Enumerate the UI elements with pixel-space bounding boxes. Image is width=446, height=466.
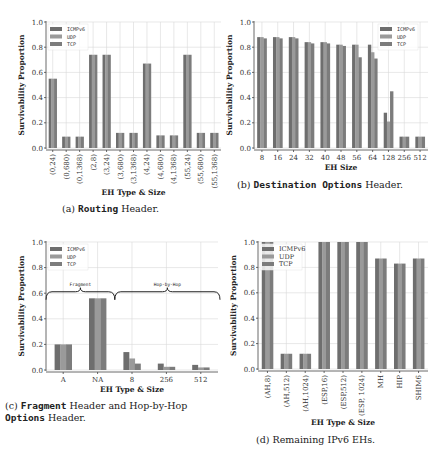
bar-icmpv6-12 bbox=[210, 133, 213, 148]
bar-udp-4 bbox=[324, 42, 327, 148]
bar-tcp-11 bbox=[202, 133, 205, 148]
bar-udp-10 bbox=[419, 137, 422, 148]
bar-tcp-8 bbox=[162, 135, 165, 148]
bar-udp-3 bbox=[322, 242, 326, 369]
y-tick-label: 0.6 bbox=[244, 289, 256, 297]
bar-tcp-1 bbox=[288, 354, 292, 369]
legend-swatch-icmpv6 bbox=[50, 247, 62, 251]
bar-icmpv6-8 bbox=[156, 135, 159, 148]
brace-hop-by-hop bbox=[115, 288, 220, 300]
annotation-hop-by-hop: Hop-by-Hop bbox=[154, 282, 181, 287]
x-tick-label: (3,1368) bbox=[130, 154, 138, 184]
bar-icmpv6-0 bbox=[49, 79, 52, 148]
bar-icmpv6-0 bbox=[257, 37, 260, 148]
legend-swatch-tcp bbox=[380, 42, 392, 46]
bar-tcp-1 bbox=[68, 137, 71, 148]
bar-udp-3 bbox=[92, 55, 95, 148]
bar-icmpv6-0 bbox=[55, 344, 61, 370]
y-tick-label: 0.0 bbox=[32, 367, 43, 375]
caption: (a) Routing Header. bbox=[62, 203, 159, 214]
legend-label-udp: UDP bbox=[397, 34, 406, 40]
bar-udp-7 bbox=[371, 52, 374, 148]
bar-tcp-3 bbox=[311, 43, 314, 148]
bar-icmpv6-5 bbox=[356, 242, 360, 369]
x-tick-label: 24 bbox=[289, 154, 298, 162]
x-tick-label: 128 bbox=[382, 154, 395, 162]
bar-icmpv6-10 bbox=[415, 137, 418, 148]
y-tick-label: 0.4 bbox=[244, 315, 256, 323]
bar-icmpv6-6 bbox=[129, 133, 132, 148]
bar-tcp-9 bbox=[406, 137, 409, 148]
chart-c: 0.00.20.40.60.81.0ANA8256512EH Type & Si… bbox=[5, 239, 220, 424]
caption-prefix: (a) bbox=[62, 203, 78, 214]
y-tick-label: 0.4 bbox=[32, 94, 44, 102]
bar-icmpv6-4 bbox=[103, 55, 106, 148]
legend-swatch-udp bbox=[262, 255, 274, 259]
y-tick-label: 0.4 bbox=[240, 94, 252, 102]
y-tick-label: 0.0 bbox=[240, 145, 251, 153]
legend-swatch-icmpv6 bbox=[262, 247, 274, 251]
x-tick-label: 256 bbox=[160, 376, 174, 384]
bar-udp-2 bbox=[292, 37, 295, 148]
x-tick-label: (0,680) bbox=[63, 154, 71, 180]
bar-icmpv6-2 bbox=[123, 352, 129, 370]
x-tick-label: 32 bbox=[305, 154, 314, 162]
chart-b: 0.00.20.40.60.81.08162432404856641282565… bbox=[225, 19, 428, 191]
bar-icmpv6-3 bbox=[305, 42, 308, 148]
bar-udp-5 bbox=[360, 242, 364, 369]
chart-d: 0.00.20.40.60.81.0(AH,8)(AH,512)(AH,1024… bbox=[229, 239, 428, 446]
bar-udp-5 bbox=[339, 45, 342, 148]
x-tick-label: HIP bbox=[396, 375, 404, 389]
x-tick-label: 16 bbox=[273, 154, 282, 162]
bar-icmpv6-3 bbox=[89, 55, 92, 148]
bar-icmpv6-2 bbox=[76, 137, 79, 148]
bar-icmpv6-1 bbox=[273, 37, 276, 148]
y-tick-label: 0.6 bbox=[32, 69, 44, 77]
bar-icmpv6-4 bbox=[192, 365, 198, 370]
bar-tcp-4 bbox=[204, 367, 210, 370]
y-tick-label: 1.0 bbox=[244, 239, 255, 247]
bar-icmpv6-1 bbox=[89, 298, 95, 370]
y-tick-label: 0.6 bbox=[240, 69, 252, 77]
bar-udp-2 bbox=[303, 354, 307, 369]
legend-swatch-udp bbox=[50, 35, 62, 39]
caption-prefix: (d) bbox=[256, 434, 273, 445]
bar-udp-4 bbox=[105, 55, 108, 148]
x-axis-label: EH Type & Size bbox=[102, 188, 166, 197]
legend-swatch-tcp bbox=[50, 262, 62, 266]
bar-tcp-8 bbox=[390, 91, 393, 148]
y-tick-label: 1.0 bbox=[32, 19, 43, 27]
x-tick-label: (55,24) bbox=[184, 154, 192, 180]
brace-fragment bbox=[46, 288, 115, 300]
bar-icmpv6-10 bbox=[183, 55, 186, 148]
caption-mono: Options bbox=[5, 412, 45, 423]
x-tick-label: 48 bbox=[337, 154, 346, 162]
caption: (b) Destination Options Header. bbox=[237, 179, 403, 190]
legend-label-udp: UDP bbox=[67, 254, 76, 260]
x-tick-label: (2,8) bbox=[90, 154, 98, 171]
caption-suffix: Header. bbox=[118, 203, 159, 214]
y-axis-label: Survivability Proportion bbox=[225, 34, 234, 136]
bar-tcp-4 bbox=[108, 55, 111, 148]
bar-tcp-0 bbox=[54, 79, 57, 148]
x-tick-label: (0,24) bbox=[49, 154, 57, 175]
legend: ICMPv6UDPTCP bbox=[378, 24, 418, 50]
legend-swatch-udp bbox=[380, 35, 392, 39]
bar-udp-3 bbox=[308, 42, 311, 148]
x-tick-label: (3,680) bbox=[117, 154, 125, 180]
bar-udp-8 bbox=[417, 259, 421, 369]
legend-swatch-icmpv6 bbox=[50, 27, 62, 31]
y-axis-label: Survivability Proportion bbox=[229, 254, 238, 356]
bar-icmpv6-3 bbox=[158, 364, 164, 370]
bar-tcp-3 bbox=[94, 55, 97, 148]
x-tick-label: (ESP,512) bbox=[340, 375, 348, 410]
legend-label-tcp: TCP bbox=[279, 260, 293, 268]
bar-tcp-0 bbox=[66, 344, 72, 370]
y-tick-label: 0.4 bbox=[32, 315, 44, 323]
bar-tcp-7 bbox=[402, 264, 406, 369]
bar-icmpv6-7 bbox=[368, 45, 371, 148]
bar-tcp-4 bbox=[345, 242, 349, 369]
bar-udp-8 bbox=[387, 122, 390, 148]
x-tick-label: MH bbox=[377, 375, 385, 388]
bar-icmpv6-6 bbox=[375, 259, 379, 369]
